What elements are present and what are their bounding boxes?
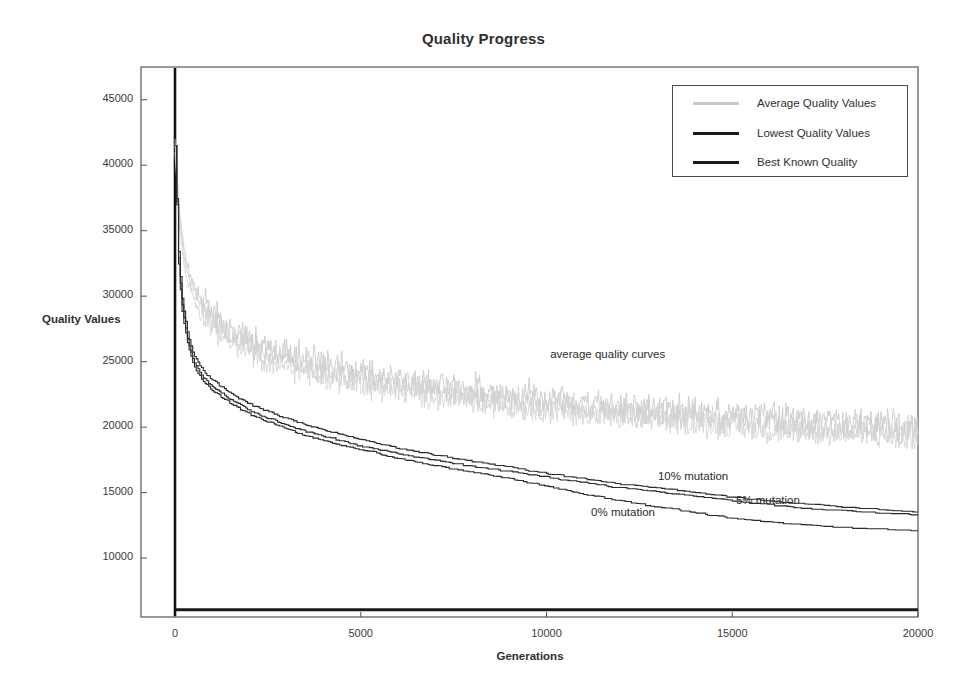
legend-item-lowest[interactable]: Lowest Quality Values <box>673 118 909 148</box>
legend-swatch-average <box>693 102 739 105</box>
y-tick-label: 35000 <box>63 223 133 235</box>
y-tick-label: 20000 <box>63 419 133 431</box>
y-tick-label: 45000 <box>63 92 133 104</box>
legend-swatch-lowest <box>693 132 739 135</box>
legend-item-average[interactable]: Average Quality Values <box>673 88 909 118</box>
y-tick-label: 25000 <box>63 354 133 366</box>
chart-annotation: 5% mutation <box>736 494 800 506</box>
legend-label-best-known: Best Known Quality <box>757 156 857 168</box>
chart-annotation: 10% mutation <box>658 470 728 482</box>
y-tick-label: 30000 <box>63 288 133 300</box>
legend-swatch-best-known <box>693 161 739 164</box>
legend-item-best-known[interactable]: Best Known Quality <box>673 147 909 177</box>
chart-legend: Average Quality Values Lowest Quality Va… <box>672 85 908 177</box>
y-tick-label: 15000 <box>63 485 133 497</box>
y-tick-label: 10000 <box>63 550 133 562</box>
chart-figure: Quality Progress Quality Values Generati… <box>0 0 967 690</box>
x-tick-label: 20000 <box>888 627 948 639</box>
y-tick-label: 40000 <box>63 157 133 169</box>
legend-label-average: Average Quality Values <box>757 97 876 109</box>
x-tick-label: 15000 <box>702 627 762 639</box>
legend-label-lowest: Lowest Quality Values <box>757 127 870 139</box>
chart-annotation: average quality curves <box>550 348 665 360</box>
x-tick-label: 5000 <box>331 627 391 639</box>
x-tick-label: 0 <box>145 627 205 639</box>
x-tick-label: 10000 <box>517 627 577 639</box>
chart-annotation: 0% mutation <box>591 506 655 518</box>
